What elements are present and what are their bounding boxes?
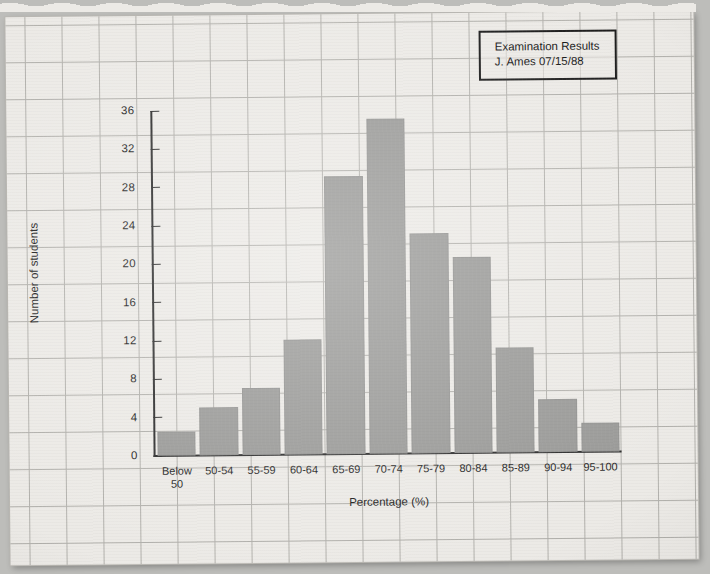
x-axis-category-label: 85-89 [495, 456, 538, 474]
bar-slot [279, 109, 325, 454]
bar [200, 407, 239, 455]
bar [284, 339, 323, 454]
y-axis-ticks: 04812162024283236 [5, 11, 693, 18]
y-axis-tick-label: 8 [109, 373, 137, 385]
bar-slot [152, 111, 198, 456]
y-axis-tick-label: 20 [108, 258, 136, 270]
x-axis-category-label: 60-64 [283, 458, 326, 476]
bar [366, 118, 408, 454]
y-axis-tick-label: 24 [107, 220, 135, 232]
x-axis-category-label: Below50 [156, 459, 199, 489]
annotation-title: Examination Results [495, 38, 615, 54]
y-axis-tick-label: 32 [107, 143, 135, 155]
bar [538, 399, 577, 452]
y-axis-tick-label: 12 [108, 335, 136, 347]
bar [452, 256, 492, 453]
y-axis-tick-row: 0 [10, 450, 163, 452]
x-axis-category-label: 50-54 [198, 459, 241, 477]
x-axis-category-label: 75-79 [410, 457, 453, 475]
bar-slot [491, 107, 537, 452]
y-axis-tick-label: 28 [107, 182, 135, 194]
x-axis-category-label: 65-69 [325, 458, 368, 476]
y-axis-tick-row: 32 [7, 143, 160, 145]
histogram-plot: 04812162024283236 Number of students Bel… [5, 11, 698, 566]
y-axis-tick-label: 4 [109, 412, 137, 424]
y-axis-tick-row: 4 [9, 411, 162, 413]
bar-series [152, 106, 621, 455]
graph-paper-sheet: 04812162024283236 Number of students Bel… [5, 11, 698, 566]
bar-slot [195, 110, 241, 455]
torn-top-edge [0, 0, 696, 12]
y-axis-tick-label: 0 [110, 450, 138, 462]
x-axis-category-label: 95-100 [579, 455, 622, 473]
annotation-byline: J. Ames 07/15/88 [495, 53, 615, 69]
bar-slot [364, 108, 410, 453]
bar [157, 432, 196, 456]
bar-slot [322, 109, 368, 454]
bar-slot [449, 108, 495, 453]
screenshot-root: 04812162024283236 Number of students Bel… [0, 0, 710, 574]
x-axis-category-label: 80-84 [452, 457, 495, 475]
y-axis-tick-label: 36 [106, 105, 134, 117]
x-axis-category-label: 55-59 [240, 459, 283, 477]
x-axis-category-label: 70-74 [367, 457, 410, 475]
bar [495, 347, 534, 453]
bar [242, 388, 281, 455]
bar [324, 176, 365, 454]
bar [410, 233, 450, 454]
bar-slot [406, 108, 452, 453]
x-axis-category-label: 90-94 [537, 456, 580, 474]
bar-slot [576, 106, 622, 451]
y-axis-title: Number of students [27, 203, 40, 343]
bar-slot [534, 107, 580, 452]
y-axis-tick-row: 28 [7, 181, 160, 183]
y-axis-tick-row: 8 [9, 373, 162, 375]
bar-slot [237, 110, 283, 455]
annotation-box: Examination Results J. Ames 07/15/88 [479, 29, 617, 80]
bar [581, 423, 620, 452]
y-axis-tick-label: 16 [108, 297, 136, 309]
y-axis-tick-row: 36 [6, 105, 159, 107]
